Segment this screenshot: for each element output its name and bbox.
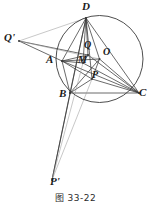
segment-C-P bbox=[92, 79, 139, 93]
vertices-layer bbox=[18, 17, 140, 181]
point-label-O: O bbox=[103, 47, 110, 57]
point-label-P: P bbox=[92, 70, 98, 80]
vertex-B bbox=[69, 92, 71, 94]
segment-C-O bbox=[100, 59, 140, 93]
vertex-A bbox=[61, 60, 63, 62]
point-label-A: A bbox=[46, 54, 53, 65]
vertex-D bbox=[85, 17, 87, 19]
point-label-M: M bbox=[78, 55, 87, 65]
vertex-O bbox=[99, 58, 101, 60]
point-label-Pp: P' bbox=[50, 176, 60, 187]
geometry-canvas bbox=[0, 0, 151, 205]
point-label-Q: Q bbox=[84, 40, 91, 50]
segment-Pp-P bbox=[52, 79, 92, 180]
figure-caption: 图 33-22 bbox=[0, 191, 151, 204]
vertex-Qp bbox=[18, 40, 20, 42]
geometry-figure: DQOAMPBCQ'P' 图 33-22 bbox=[0, 0, 151, 205]
segment-B-P bbox=[70, 79, 92, 93]
vertex-Q bbox=[87, 54, 89, 56]
segment-A-P bbox=[62, 61, 92, 79]
segment-Qp-D bbox=[19, 18, 86, 41]
point-label-C: C bbox=[139, 87, 146, 98]
segments-layer bbox=[19, 18, 139, 180]
segment-Qp-A bbox=[19, 41, 62, 61]
point-label-Qp: Q' bbox=[4, 32, 15, 43]
segment-Pp-D bbox=[52, 18, 86, 180]
segment-Pp-M bbox=[52, 63, 83, 180]
point-label-B: B bbox=[59, 88, 66, 99]
point-label-D: D bbox=[82, 1, 90, 12]
